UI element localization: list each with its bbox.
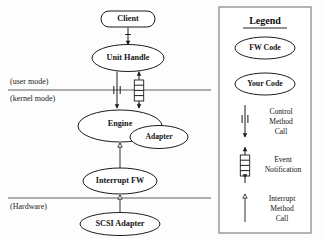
- legend-item-fw-code: FW Code: [235, 37, 295, 59]
- node-adapter[interactable]: Adapter: [130, 126, 188, 149]
- legend-interrupt-label-line-3: Call: [276, 214, 289, 223]
- node-adapter-label: Adapter: [146, 132, 174, 141]
- node-interrupt-fw-label: Interrupt FW: [96, 176, 145, 185]
- node-scsi-adapter-label: SCSI Adapter: [96, 219, 145, 228]
- legend-event-label-line-2: Notification: [265, 165, 302, 174]
- legend-panel: Legend FW Code Your Code Control: [219, 7, 311, 233]
- legend-control-label-line-1: Control: [269, 107, 292, 116]
- diagram-page: (user mode) (kernel mode) (Hardware) Cli…: [0, 0, 324, 239]
- legend-control-label-line-2: Method: [269, 117, 293, 126]
- node-interrupt-fw[interactable]: Interrupt FW: [83, 168, 157, 194]
- legend-item-fw-code-label: FW Code: [249, 43, 281, 52]
- node-engine-label: Engine: [108, 119, 133, 128]
- node-unit-handle-label: Unit Handle: [107, 53, 150, 62]
- edge-client-to-unit-handle: [125, 28, 131, 45]
- edge-engine-to-unit-handle: [134, 72, 143, 109]
- boundary-label-kernel-mode: (kernel mode): [10, 94, 55, 103]
- legend-item-your-code: Your Code: [235, 73, 295, 95]
- legend-interrupt-label-line-2: Method: [270, 204, 294, 213]
- legend-control-label-line-3: Call: [275, 127, 288, 136]
- boundary-label-hardware: (Hardware): [10, 202, 47, 211]
- node-client[interactable]: Client: [101, 11, 155, 27]
- legend-item-your-code-label: Your Code: [247, 79, 283, 88]
- legend-interrupt-label-line-1: Interrupt: [269, 194, 296, 203]
- legend-title: Legend: [249, 15, 281, 26]
- node-scsi-adapter[interactable]: SCSI Adapter: [80, 213, 160, 236]
- legend-event-label-line-1: Event: [274, 155, 293, 164]
- boundary-label-user-mode: (user mode): [10, 77, 49, 86]
- node-client-label: Client: [117, 14, 139, 23]
- node-unit-handle[interactable]: Unit Handle: [92, 45, 164, 72]
